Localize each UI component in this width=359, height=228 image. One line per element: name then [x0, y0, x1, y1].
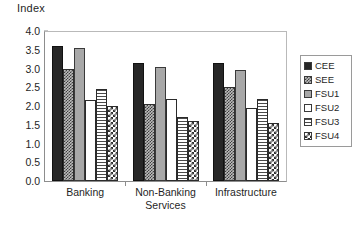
- bar-fsu4-infrastructure: [268, 123, 279, 181]
- legend-item-fsu2[interactable]: FSU2: [304, 101, 348, 115]
- legend-swatch-icon: [304, 62, 312, 70]
- legend-item-cee[interactable]: CEE: [304, 59, 348, 73]
- legend-label: FSU4: [315, 131, 339, 141]
- x-tick-label-line: Infrastructure: [215, 186, 277, 199]
- bars-layer: [45, 31, 286, 181]
- x-axis-tick-labels: BankingNon-BankingServicesInfrastructure: [45, 186, 286, 226]
- bar-fsu1-non-banking-services: [155, 67, 166, 181]
- y-tick-label: 0.5: [25, 156, 40, 168]
- bar-fsu1-banking: [74, 48, 85, 181]
- bar-fsu3-infrastructure: [257, 99, 268, 182]
- y-tick-label: 2.5: [25, 81, 40, 93]
- bar-cee-non-banking-services: [133, 63, 144, 181]
- bar-see-non-banking-services: [144, 104, 155, 181]
- legend-label: FSU3: [315, 117, 339, 127]
- legend-item-fsu4[interactable]: FSU4: [304, 129, 348, 143]
- legend-swatch-icon: [304, 76, 312, 84]
- y-tick-label: 2.0: [25, 100, 40, 112]
- legend-item-fsu1[interactable]: FSU1: [304, 87, 348, 101]
- bar-fsu2-infrastructure: [246, 108, 257, 181]
- y-tick-label: 4.0: [25, 25, 40, 37]
- bar-see-infrastructure: [224, 87, 235, 181]
- bar-fsu2-banking: [85, 100, 96, 181]
- bar-fsu2-non-banking-services: [166, 99, 177, 182]
- bar-fsu3-non-banking-services: [177, 117, 188, 181]
- x-tick-label-line: Services: [135, 199, 196, 212]
- bar-fsu4-non-banking-services: [188, 121, 199, 181]
- legend-label: CEE: [315, 61, 335, 71]
- legend-swatch-icon: [304, 118, 312, 126]
- y-tick-label: 1.0: [25, 138, 40, 150]
- bar-see-banking: [63, 69, 74, 182]
- y-tick-label: 3.0: [25, 63, 40, 75]
- legend-swatch-icon: [304, 90, 312, 98]
- legend-item-see[interactable]: SEE: [304, 73, 348, 87]
- x-tick-label: Infrastructure: [215, 186, 277, 199]
- legend-label: FSU1: [315, 89, 339, 99]
- y-axis-tick-labels: 4.03.53.02.52.01.51.00.50.0: [0, 31, 40, 182]
- bar-fsu3-banking: [96, 89, 107, 181]
- y-axis-title: Index: [17, 2, 45, 14]
- legend-swatch-icon: [304, 104, 312, 112]
- x-tick-label-line: Non-Banking: [135, 186, 196, 199]
- y-tick-label: 0.0: [25, 175, 40, 187]
- y-tick-label: 1.5: [25, 119, 40, 131]
- bar-cee-banking: [52, 46, 63, 181]
- bar-chart: Index 4.03.53.02.52.01.51.00.50.0 Bankin…: [0, 0, 359, 228]
- legend-label: FSU2: [315, 103, 339, 113]
- y-tick-label: 3.5: [25, 44, 40, 56]
- legend-swatch-icon: [304, 132, 312, 140]
- x-tick-label: Non-BankingServices: [135, 186, 196, 212]
- legend-label: SEE: [315, 75, 334, 85]
- legend-item-fsu3[interactable]: FSU3: [304, 115, 348, 129]
- x-tick-label-line: Banking: [66, 186, 104, 199]
- bar-fsu1-infrastructure: [235, 70, 246, 181]
- x-tick-label: Banking: [66, 186, 104, 199]
- bar-fsu4-banking: [107, 106, 118, 181]
- chart-legend: CEESEEFSU1FSU2FSU3FSU4: [300, 55, 352, 147]
- bar-cee-infrastructure: [213, 63, 224, 181]
